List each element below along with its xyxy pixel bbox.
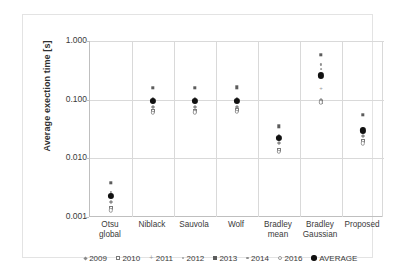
data-point-average [234,98,240,104]
plot-area: +++++++ [89,41,383,217]
data-point-2013 [277,125,280,128]
data-point-2016 [193,110,197,114]
vertical-gridline [342,41,343,217]
data-point-2012 [320,68,322,70]
horizontal-gridline [90,41,384,42]
legend-item-label: 2013 [219,254,237,263]
legend-marker-icon [182,257,184,259]
data-point-2013 [235,86,238,89]
data-point-average [150,98,156,104]
data-point-2013 [109,181,112,184]
chart-frame: 1.0000.1000.0100.001 Average exection ti… [22,14,373,258]
vertical-gridline [258,41,259,217]
x-axis-category-labels: OtsuglobalNiblackSauvolaWolfBradleymeanB… [89,220,383,248]
data-point-2013 [151,86,154,89]
legend-marker-icon [278,256,282,260]
x-axis-category-label: Proposed [341,220,383,248]
vertical-gridline [216,41,217,217]
legend-item-2013[interactable]: 2013 [213,254,237,263]
legend-item-2009[interactable]: 2009 [84,254,107,263]
vertical-gridline [300,41,301,217]
legend-marker-icon [213,256,217,260]
legend-item-label: 2016 [285,254,303,263]
legend-item-2016[interactable]: 2016 [278,254,302,263]
data-point-2016 [235,110,239,114]
legend-item-label: 2012 [187,254,205,263]
vertical-gridline [174,41,175,217]
y-axis-tick-label: 0.001 [45,212,87,221]
data-point-average [318,72,324,78]
legend-item-2010[interactable]: 2010 [116,254,140,263]
y-axis-tick-mark [85,41,89,42]
y-axis-tick-mark [85,158,89,159]
y-axis-tick-mark [85,100,89,101]
x-axis-category-label: Wolf [215,220,257,248]
legend-marker-icon: + [149,255,153,261]
vertical-gridline [132,41,133,217]
data-point-average [108,193,114,199]
data-point-2009 [361,134,365,138]
data-point-2009 [109,200,113,204]
data-point-2013 [319,53,322,56]
legend-item-label: AVERAGE [319,254,357,263]
data-point-2011: + [319,86,323,90]
plot-right-border [382,41,383,217]
data-point-2016 [277,149,281,153]
x-axis-category-label: Bradleymean [257,220,299,248]
legend-item-2012[interactable]: 2012 [182,254,204,263]
y-axis-title: Average exection time [s] [42,6,52,186]
legend-item-average[interactable]: AVERAGE [311,254,357,263]
legend-marker-icon [83,256,87,260]
data-point-average [360,127,366,133]
legend-item-label: 2009 [89,254,107,263]
data-point-average [276,135,282,141]
data-point-2016 [361,141,365,145]
data-point-average [192,98,198,104]
x-axis-category-label: Otsuglobal [89,220,131,248]
chart-legend: 20092010+20112012201320142016AVERAGE [45,251,395,265]
data-point-2013 [361,113,364,116]
x-axis-category-label: Sauvola [173,220,215,248]
legend-item-label: 2010 [122,254,140,263]
data-point-2016 [151,110,155,114]
legend-marker-icon [116,256,120,260]
x-axis-category-label: Niblack [131,220,173,248]
data-point-2016 [319,100,323,104]
data-point-2014 [320,63,322,65]
legend-marker-icon [311,255,316,260]
data-point-2016 [109,208,113,212]
legend-item-label: 2011 [156,254,173,263]
legend-item-2014[interactable]: 2014 [246,254,269,263]
legend-item-2011[interactable]: +2011 [149,254,173,263]
horizontal-gridline [90,158,384,159]
x-axis-category-label: BradleyGaussian [299,220,341,248]
legend-marker-icon [246,257,248,259]
legend-item-label: 2014 [251,254,269,263]
data-point-2013 [193,86,196,89]
y-axis-tick-mark [85,217,89,218]
chart-figure: 1.0000.1000.0100.001 Average exection ti… [0,0,395,271]
